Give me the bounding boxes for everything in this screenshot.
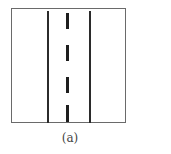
figure-caption: (a) (55, 131, 85, 145)
right-solid-lane-line (89, 11, 91, 123)
center-dash-1 (66, 13, 69, 29)
left-solid-lane-line (47, 11, 49, 123)
center-dash-3 (66, 77, 69, 93)
center-dash-2 (66, 45, 69, 61)
center-dash-4 (66, 105, 69, 122)
